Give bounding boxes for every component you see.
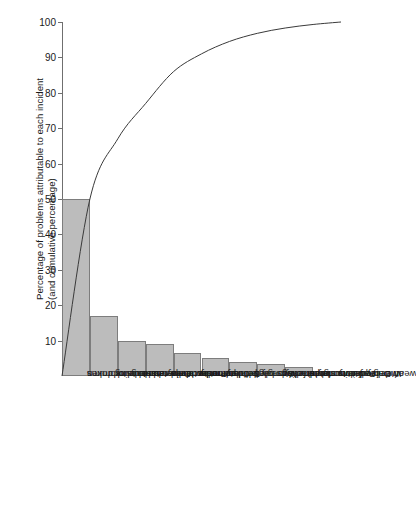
- y-axis-title: Percentage of problems attributable to e…: [14, 78, 34, 348]
- x-axis-category-label: Customer receivedrusty drums: [146, 380, 174, 514]
- y-axis-tick-label: 10: [45, 335, 56, 346]
- y-axis-tick-label: 90: [45, 52, 56, 63]
- x-axis-category-label: Delivery not asper order: [174, 380, 202, 514]
- y-axis-tick-label: 80: [45, 87, 56, 98]
- y-axis-tick-label: 30: [45, 264, 56, 275]
- x-axis-category-label: Product delivered attoo low temperature: [118, 380, 146, 514]
- x-axis-category-label: Wrong quantity statedon delivery documen…: [285, 380, 313, 514]
- y-axis-tick-label: 60: [45, 158, 56, 169]
- x-axis-category-label: Delay due to truckrescheduling: [90, 380, 118, 514]
- x-axis-category-label: Pallet wrongly stackedfor handling: [257, 380, 285, 514]
- plot-area: 102030405060708090100: [62, 22, 341, 376]
- y-axis-tick-label: 40: [45, 229, 56, 240]
- y-axis-tick-label: 100: [39, 17, 56, 28]
- y-axis-tick-label: 50: [45, 194, 56, 205]
- x-axis-category-labels: Loss due to brokenbags or drumsDelay due…: [62, 380, 341, 514]
- y-axis-title-line1: Percentage of problems attributable to e…: [34, 78, 45, 300]
- x-axis-category-label: Imperfectly sealeddrums or bags: [229, 380, 257, 514]
- x-axis-category-label: Delay due toweather conditions: [313, 380, 341, 514]
- x-axis-category-label: Wrongly labelledproduct: [202, 380, 230, 514]
- y-axis-tick-label: 20: [45, 300, 56, 311]
- x-axis-category-label: Loss due to brokenbags or drums: [62, 380, 90, 514]
- y-axis-tick-label: 70: [45, 123, 56, 134]
- category-label-line2: weather conditions: [338, 369, 416, 380]
- cumulative-percentage-curve: [62, 22, 341, 376]
